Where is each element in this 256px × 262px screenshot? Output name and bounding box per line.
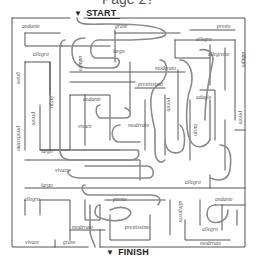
tempo-label-allegro-2: allegro [33, 52, 49, 58]
tempo-label-presto-2: presto [166, 98, 172, 112]
tempo-label-largo-5: largo [41, 183, 53, 189]
triangle-down-icon: ▼ [74, 9, 82, 18]
tempo-label-prestissimo-1: prestissimo [138, 82, 163, 88]
tempo-label-allegretto-1: allegretto [208, 52, 229, 58]
tempo-label-largo-3: largo [193, 124, 199, 136]
tempo-label-moderato-2: moderato [128, 123, 149, 129]
tempo-label-largo-4: largo [41, 149, 53, 155]
tempo-label-presto-4: presto [238, 111, 244, 125]
tempo-label-allegro-4: allegro [24, 197, 40, 203]
tempo-label-moderato-3: moderato [72, 225, 93, 231]
tempo-label-andante-3: andante [215, 197, 233, 203]
tempo-label-moderato-1: moderato [155, 66, 176, 72]
tempo-label-largo-2: largo [49, 96, 55, 108]
tempo-label-vivace-2: vivace [55, 168, 69, 174]
tempo-label-moderato-4: moderato [200, 241, 221, 247]
tempo-label-grave-1: grave [115, 24, 128, 30]
tempo-label-presto-5: presto [113, 197, 127, 203]
start-marker: ▼START [74, 8, 116, 18]
tempo-label-vivace-1: vivace [78, 124, 92, 130]
tempo-label-prestissimo-2: prestissimo [16, 126, 22, 151]
tempo-label-adagio-3: adagio [196, 95, 211, 101]
tempo-label-allegretto-2: allegretto [178, 201, 184, 222]
finish-marker: ▼FINISH [106, 247, 149, 257]
tempo-label-grave-2: grave [16, 72, 22, 85]
tempo-label-adagio-2: adagio [241, 52, 247, 67]
tempo-label-grave-3: grave [63, 240, 76, 246]
tempo-label-adagio-1: adagio [78, 56, 84, 71]
tempo-label-allegro-3: allegro [185, 180, 201, 186]
tempo-label-allegro-1: allegro [196, 37, 212, 43]
tempo-label-vivace-3: vivace [25, 240, 39, 246]
triangle-down-icon: ▼ [106, 248, 114, 257]
tempo-label-andante-2: andante [83, 97, 101, 103]
start-underline [88, 18, 120, 19]
tempo-label-presto-3: presto [31, 112, 37, 126]
tempo-label-presto-1: presto [217, 24, 231, 30]
tempo-label-largo-1: largo [113, 49, 125, 55]
start-label: START [86, 8, 116, 18]
maze-board [0, 0, 256, 262]
tempo-label-andante-1: andante [22, 24, 40, 30]
finish-label: FINISH [118, 247, 149, 257]
tempo-label-prestissimo-3: prestissimo [125, 225, 150, 231]
tempo-label-allegro-5: allegro [202, 227, 218, 233]
